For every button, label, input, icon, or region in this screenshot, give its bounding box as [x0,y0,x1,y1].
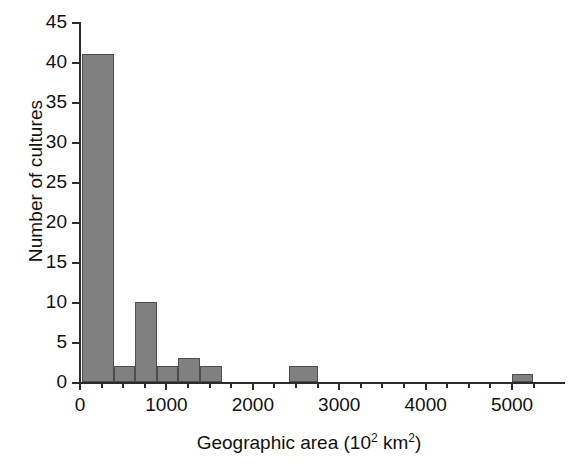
y-axis-tick: 30 [72,142,79,144]
histogram-bar [157,366,179,382]
y-axis-tick-label: 15 [46,251,67,273]
x-axis-minor-tick [230,382,232,388]
x-axis-tick: 5000 [511,382,513,390]
histogram-bar [114,366,136,382]
x-axis-tick-label: 0 [75,394,86,416]
histogram-bar [82,54,114,382]
y-axis-tick: 35 [72,102,79,104]
y-axis-tick-label: 35 [46,91,67,113]
y-axis-tick: 25 [72,182,79,184]
y-axis-tick-label: 20 [46,211,67,233]
x-axis-minor-tick [533,382,535,388]
x-axis-minor-tick [101,382,103,388]
y-axis-tick-label: 5 [56,331,67,353]
x-axis-title-text-mid: km [378,432,409,453]
y-axis-tick: 0 [72,382,79,384]
histogram-figure: Number of cultures Geographic area (102 … [0,0,577,474]
x-axis-tick: 2000 [252,382,254,390]
y-axis-tick: 15 [72,262,79,264]
y-axis-tick-label: 0 [56,371,67,393]
x-axis-tick-label: 3000 [318,394,360,416]
x-axis-minor-tick [295,382,297,388]
x-axis-minor-tick [489,382,491,388]
x-axis-minor-tick [403,382,405,388]
x-axis-minor-tick [122,382,124,388]
y-axis-tick: 5 [72,342,79,344]
y-axis-tick: 20 [72,222,79,224]
plot-area: 051015202530354045 010002000300040005000 [79,22,565,382]
x-axis-title-text-after: ) [415,432,421,453]
histogram-bar [178,358,200,382]
histogram-bar [512,374,533,382]
x-axis-title-sup-1: 2 [371,431,378,445]
x-axis-title-text-before: Geographic area (10 [197,432,371,453]
x-axis-tick-label: 4000 [405,394,447,416]
y-axis-tick: 10 [72,302,79,304]
y-axis-tick-label: 25 [46,171,67,193]
x-axis-tick: 1000 [165,382,167,390]
histogram-bar [289,366,318,382]
x-axis-tick-label: 1000 [145,394,187,416]
x-axis-tick: 0 [79,382,81,390]
x-axis-tick-label: 5000 [491,394,533,416]
x-axis-minor-tick [273,382,275,388]
x-axis-minor-tick [317,382,319,388]
y-axis-tick-label: 45 [46,11,67,33]
histogram-bar [135,302,157,382]
x-axis-title: Geographic area (102 km2) [79,432,539,454]
x-axis-minor-tick [144,382,146,388]
x-axis-tick: 3000 [338,382,340,390]
x-axis-minor-tick [209,382,211,388]
y-axis-tick: 45 [72,22,79,24]
y-axis-tick-label: 30 [46,131,67,153]
x-axis-minor-tick [360,382,362,388]
y-axis-tick-label: 40 [46,51,67,73]
y-axis-tick-label: 10 [46,291,67,313]
histogram-bar [200,366,222,382]
y-axis-tick: 40 [72,62,79,64]
y-axis-title: Number of cultures [25,51,47,311]
x-axis-tick-label: 2000 [232,394,274,416]
x-axis-title-sup-2: 2 [408,431,415,445]
x-axis-minor-tick [187,382,189,388]
x-axis-minor-tick [381,382,383,388]
x-axis-minor-tick [468,382,470,388]
x-axis-line [79,382,565,384]
x-axis-minor-tick [446,382,448,388]
x-axis-tick: 4000 [425,382,427,390]
